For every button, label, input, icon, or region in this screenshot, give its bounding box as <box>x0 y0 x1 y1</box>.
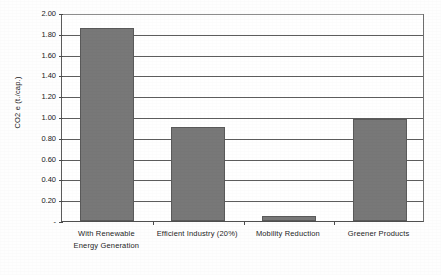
x-axis-tick-mark <box>334 221 335 225</box>
bar[interactable] <box>353 119 407 221</box>
x-axis-category-label: With RenewableEnergy Generation <box>61 228 152 251</box>
y-axis-tick-label: 0.20 <box>22 197 56 205</box>
y-axis-tick-label: 1.80 <box>22 31 56 39</box>
y-axis-tick-label: 1.60 <box>22 52 56 60</box>
x-axis-category-label: Mobility Reduction <box>243 228 334 240</box>
x-axis-category-label: Greener Products <box>333 228 424 240</box>
category-label-line: Greener Products <box>333 228 424 240</box>
y-axis-tick-label: 0.80 <box>22 135 56 143</box>
category-label-line: Efficient Industry (20%) <box>152 228 243 240</box>
bar[interactable] <box>262 216 316 221</box>
y-axis-tick-label: 0.40 <box>22 176 56 184</box>
bar-chart: CO2 e (t./cap.) 2.001.801.601.401.201.00… <box>0 0 441 275</box>
y-axis-tick-label: - <box>22 218 56 226</box>
bar[interactable] <box>80 28 134 221</box>
y-axis-tick-label: 1.40 <box>22 72 56 80</box>
x-axis-category-labels: With RenewableEnergy GenerationEfficient… <box>61 228 424 268</box>
y-axis-tick-label: 1.20 <box>22 93 56 101</box>
y-axis-tick-label: 1.00 <box>22 114 56 122</box>
x-axis-category-label: Efficient Industry (20%) <box>152 228 243 240</box>
y-axis-tick-label: 2.00 <box>22 10 56 18</box>
category-label-line: Energy Generation <box>61 240 152 252</box>
y-axis-tick-label: 0.60 <box>22 156 56 164</box>
y-axis-title: CO2 e (t./cap.) <box>13 48 22 158</box>
y-axis-tick-mark <box>59 222 63 223</box>
x-axis-tick-mark <box>244 221 245 225</box>
category-label-line: Mobility Reduction <box>243 228 334 240</box>
bar[interactable] <box>171 127 225 221</box>
x-axis-tick-mark <box>153 221 154 225</box>
y-axis-tick-labels: 2.001.801.601.401.201.000.800.600.400.20… <box>22 14 56 222</box>
category-label-line: With Renewable <box>61 228 152 240</box>
plot-area <box>61 14 424 222</box>
bars-layer <box>62 14 423 221</box>
